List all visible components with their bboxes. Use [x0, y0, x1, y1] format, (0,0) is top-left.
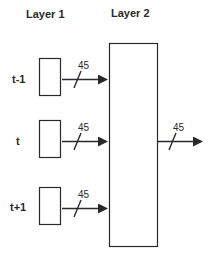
input-label: t-1 — [12, 73, 25, 85]
bus-width-label: 45 — [78, 122, 90, 133]
input-t: t 45 — [16, 121, 106, 158]
input-label: t+1 — [10, 201, 26, 213]
layer1-header: Layer 1 — [26, 8, 65, 20]
layer1-box — [40, 121, 61, 158]
diagram-canvas: Layer 1 Layer 2 t-1 45 t 45 t+1 45 45 — [0, 0, 211, 255]
bus-width-label: 45 — [173, 122, 185, 133]
bus-width-label: 45 — [78, 60, 90, 71]
layer2-box — [110, 44, 158, 247]
input-t-plus-1: t+1 45 — [10, 188, 106, 225]
layer1-box — [40, 59, 61, 96]
input-label: t — [16, 135, 20, 147]
layer2-header: Layer 2 — [111, 7, 150, 19]
bus-width-label: 45 — [78, 189, 90, 200]
input-t-minus-1: t-1 45 — [12, 59, 106, 96]
layer1-box — [40, 188, 61, 225]
output: 45 — [158, 122, 201, 150]
